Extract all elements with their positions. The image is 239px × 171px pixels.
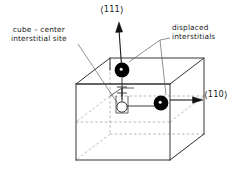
leader-line-center-site bbox=[78, 44, 118, 104]
cube-center-interstitial-site bbox=[117, 102, 127, 112]
label-displaced-line-2: interstitials bbox=[172, 32, 215, 41]
center-to-111-connector bbox=[117, 78, 127, 100]
angle-bracket-close-icon: ⟩ bbox=[120, 4, 124, 15]
label-direction-111: ⟨111⟩ bbox=[100, 5, 124, 15]
cube-hidden-edges bbox=[76, 58, 204, 160]
label-displaced-line-1: displaced bbox=[172, 23, 215, 32]
label-direction-110: ⟨110⟩ bbox=[204, 90, 228, 100]
label-cube-center-line-1: cube – center bbox=[11, 25, 67, 34]
label-cube-center-interstitial-site: cube – center interstitial site bbox=[11, 25, 67, 43]
displaced-interstitial-110 bbox=[154, 96, 169, 111]
angle-bracket-close-icon: ⟩ bbox=[224, 89, 228, 100]
interstitial-diagram-figure: cube – center interstitial site displace… bbox=[0, 0, 239, 171]
arrow-110 bbox=[170, 97, 203, 103]
label-cube-center-line-2: interstitial site bbox=[11, 34, 67, 43]
cube-top-face bbox=[76, 58, 204, 84]
label-displaced-interstitials: displaced interstitials bbox=[172, 23, 215, 41]
cube-visible-edges bbox=[76, 58, 204, 160]
leader-lines-displaced bbox=[129, 38, 170, 95]
displaced-interstitial-111 bbox=[115, 63, 130, 78]
label-direction-110-value: 110 bbox=[208, 89, 224, 99]
label-direction-111-value: 111 bbox=[104, 4, 120, 14]
